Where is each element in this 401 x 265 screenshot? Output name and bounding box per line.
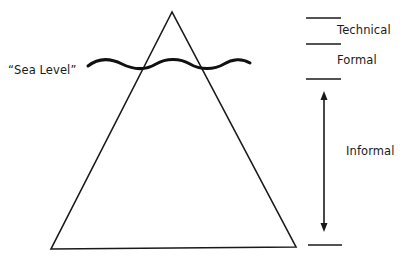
iceberg-triangle <box>51 12 296 249</box>
arrow-up-icon <box>321 91 328 100</box>
level-label-informal: Informal <box>346 146 395 158</box>
iceberg-diagram <box>0 0 401 265</box>
level-label-technical: Technical <box>337 25 391 37</box>
arrow-down-icon <box>321 223 328 232</box>
sea-level-wave <box>88 60 250 69</box>
level-label-formal: Formal <box>337 55 377 67</box>
sea-level-label: “Sea Level” <box>8 65 76 77</box>
